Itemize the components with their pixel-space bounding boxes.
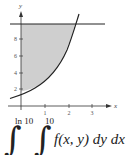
x-axis-label: x [113,102,118,110]
y-axis-label: y [18,2,23,10]
inner-upper-limit: 10 [45,116,54,126]
outer-integral-sign: ∫ [4,122,22,155]
x-axis-arrow-icon [106,104,112,108]
region-graph: y x 2 4 6 8 1 2 3 [0,0,126,116]
y-tick-label: 4 [14,70,17,76]
y-tick-label: 2 [14,86,17,92]
y-axis-arrow-icon [19,11,23,17]
y-tick-label: 6 [14,53,17,59]
double-integral-expression: ∫ ln 10 ∫ 10 f(x, y) dy dx [0,116,126,155]
inner-integral-sign: ∫ [34,122,52,155]
y-tick-label: 8 [14,36,17,42]
outer-upper-limit: ln 10 [15,116,33,126]
shaded-region [21,24,75,92]
integrand: f(x, y) dy dx [54,131,125,148]
